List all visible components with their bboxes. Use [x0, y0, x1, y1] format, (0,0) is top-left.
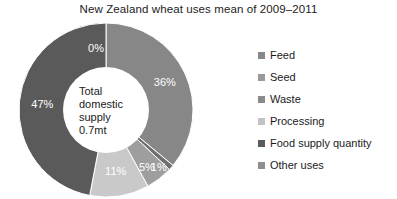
donut-chart: 36%1%5%11%47%0% Totaldomesticsupply0.7mt [18, 22, 194, 198]
chart-container: New Zealand wheat uses mean of 2009–2011… [0, 0, 397, 199]
center-label-line: 0.7mt [79, 124, 107, 136]
pie-slice-label: 47% [31, 98, 53, 110]
legend-swatch-icon [258, 140, 265, 147]
legend-swatch-icon [258, 52, 265, 59]
pie-slice-label: 11% [105, 165, 126, 177]
legend-item-label: Other uses [270, 160, 324, 171]
legend-item[interactable]: Seed [258, 66, 394, 88]
center-label-line: supply [79, 111, 111, 123]
chart-title: New Zealand wheat uses mean of 2009–2011 [0, 3, 397, 15]
legend-item-label: Waste [270, 94, 301, 105]
chart-legend: FeedSeedWasteProcessingFood supply quant… [258, 44, 394, 176]
pie-slice-label: 36% [154, 76, 176, 88]
legend-item[interactable]: Processing [258, 110, 394, 132]
legend-item[interactable]: Food supply quantity [258, 132, 394, 154]
legend-item-label: Food supply quantity [270, 138, 372, 149]
center-label-line: domestic [79, 98, 124, 110]
legend-item[interactable]: Other uses [258, 154, 394, 176]
legend-swatch-icon [258, 162, 265, 169]
legend-item[interactable]: Feed [258, 44, 394, 66]
center-label-line: Total [79, 85, 102, 97]
legend-item-label: Processing [270, 116, 324, 127]
legend-item-label: Seed [270, 72, 296, 83]
legend-item[interactable]: Waste [258, 88, 394, 110]
pie-slice-label: 0% [88, 42, 104, 54]
legend-item-label: Feed [270, 50, 295, 61]
pie-slice-label: 5% [139, 161, 155, 173]
legend-swatch-icon [258, 96, 265, 103]
legend-swatch-icon [258, 118, 265, 125]
legend-swatch-icon [258, 74, 265, 81]
donut-svg: 36%1%5%11%47%0% Totaldomesticsupply0.7mt [18, 22, 194, 198]
